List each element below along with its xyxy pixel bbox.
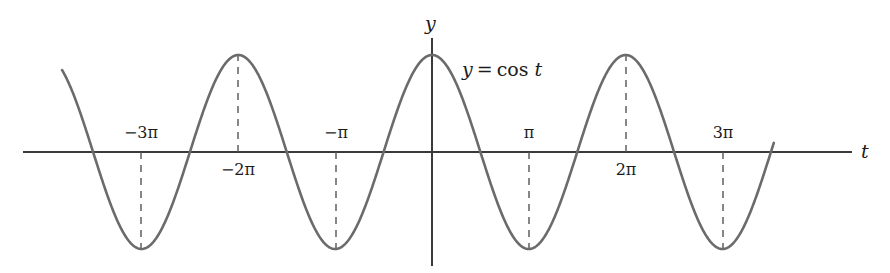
curve-equation-equals: = — [473, 58, 497, 80]
tick-label-pos-3pi: 3π — [713, 125, 734, 141]
tick-label-pos-1pi: π — [524, 125, 535, 141]
tick-label-neg-2pi: −2π — [221, 162, 255, 178]
tick-label-pos-2pi: 2π — [616, 162, 637, 178]
curve-equation-function: cos — [497, 58, 529, 80]
curve-equation-lhs: y — [462, 58, 473, 80]
x-axis-label: t — [861, 142, 869, 161]
tick-label-neg-1pi: −π — [324, 125, 348, 141]
y-axis-label: y — [425, 14, 436, 33]
curve-equation-argument: t — [535, 58, 543, 80]
curve-equation-label: y=cos t — [462, 60, 542, 79]
cosine-graph-figure: y t y=cos t −3π−2π−ππ2π3π — [0, 0, 890, 273]
tick-label-neg-3pi: −3π — [124, 125, 158, 141]
